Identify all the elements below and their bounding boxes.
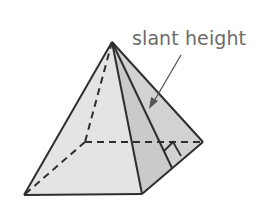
label-arrow bbox=[153, 55, 181, 103]
slant-height-label: slant height bbox=[132, 27, 246, 49]
